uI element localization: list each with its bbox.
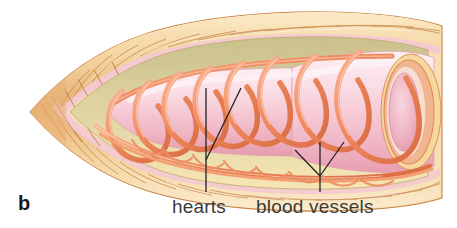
earthworm-circulatory-diagram (0, 0, 457, 228)
panel-letter: b (18, 192, 30, 215)
label-blood-vessels: blood vessels (256, 196, 374, 218)
label-hearts: hearts (172, 196, 226, 218)
